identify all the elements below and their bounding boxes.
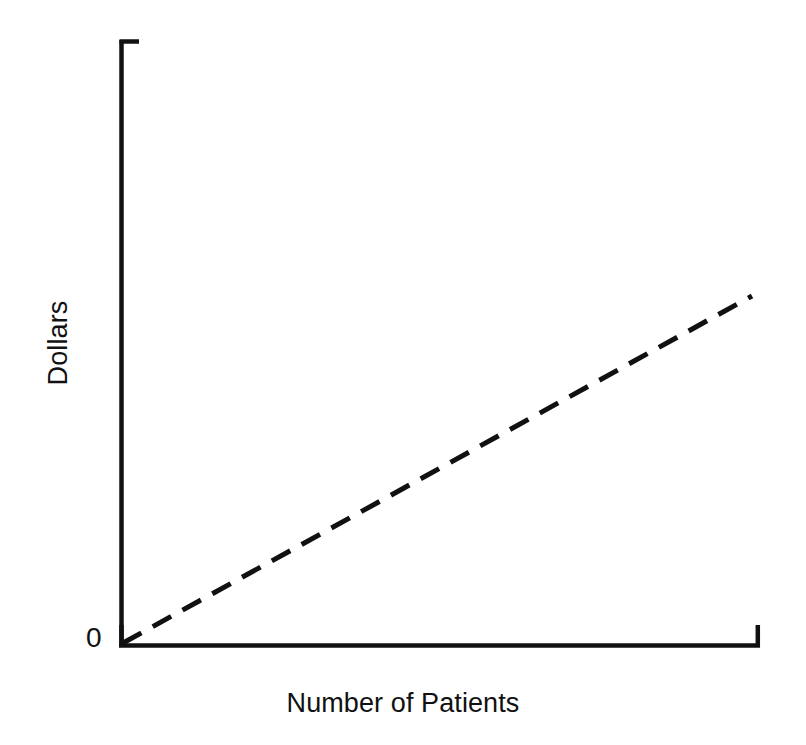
- x-axis-label: Number of Patients: [0, 688, 806, 719]
- chart-canvas: [0, 0, 806, 745]
- y-axis-label: Dollars: [43, 283, 74, 403]
- chart-figure: Dollars Number of Patients 0: [0, 0, 806, 745]
- origin-tick-label: 0: [86, 624, 102, 652]
- data-series-dashed-line: [123, 296, 752, 643]
